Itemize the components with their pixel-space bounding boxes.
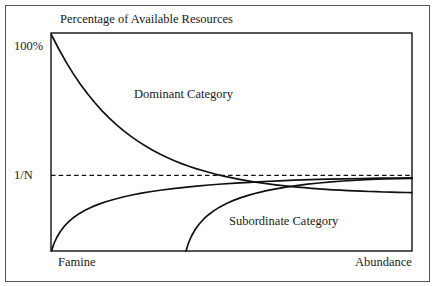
chart-title: Percentage of Available Resources: [60, 13, 233, 26]
y-axis-tick-label-1-over-n: 1/N: [14, 169, 33, 182]
curve-dominant-category-line: [52, 35, 413, 193]
x-axis-tick-label-abundance: Abundance: [355, 256, 412, 269]
y-axis-tick-label-top: 100%: [14, 40, 43, 53]
series-label-subordinate-category: Subordinate Category: [229, 215, 338, 228]
series-label-dominant-category: Dominant Category: [134, 88, 233, 101]
figure-container: Percentage of Available Resources 100% 1…: [0, 0, 437, 286]
x-axis-tick-label-famine: Famine: [58, 256, 96, 269]
chart-canvas: [0, 0, 437, 286]
